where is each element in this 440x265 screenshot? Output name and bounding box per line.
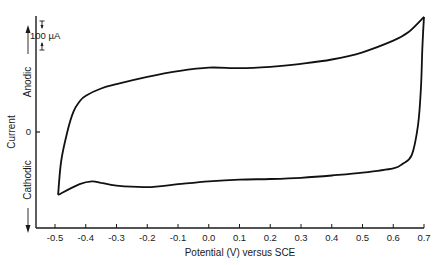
x-tick-label: 0.4 <box>325 232 338 243</box>
x-ticks: -0.5-0.4-0.3-0.2-0.10.00.10.20.30.40.50.… <box>47 224 431 243</box>
x-tick-label: 0.5 <box>356 232 369 243</box>
anodic-sweep-curve <box>58 17 424 195</box>
scale-bar-label: 100 µA <box>30 30 61 41</box>
x-tick-label: 0.3 <box>294 232 307 243</box>
x-tick-label: -0.1 <box>170 232 186 243</box>
cathodic-sweep-curve <box>58 17 424 195</box>
y-tick-label-zero: 0 <box>26 126 31 137</box>
x-tick-label: -0.3 <box>108 232 124 243</box>
x-tick-label: 0.6 <box>387 232 400 243</box>
x-tick-label: -0.4 <box>78 232 94 243</box>
x-tick-label: 0.0 <box>202 232 215 243</box>
cathodic-arrow-icon <box>26 208 31 233</box>
x-tick-label: -0.5 <box>47 232 63 243</box>
y-label-anodic: Anodic <box>22 67 33 98</box>
y-axis-title: Current <box>6 115 17 149</box>
x-tick-label: 0.2 <box>264 232 277 243</box>
x-tick-label: 0.7 <box>417 232 430 243</box>
x-tick-label: -0.2 <box>139 232 155 243</box>
y-label-cathodic: Cathodic <box>22 160 33 199</box>
x-tick-label: 0.1 <box>233 232 246 243</box>
cyclic-voltammogram-chart: 0 -0.5-0.4-0.3-0.2-0.10.00.10.20.30.40.5… <box>0 0 440 265</box>
x-axis-title: Potential (V) versus SCE <box>185 247 296 258</box>
